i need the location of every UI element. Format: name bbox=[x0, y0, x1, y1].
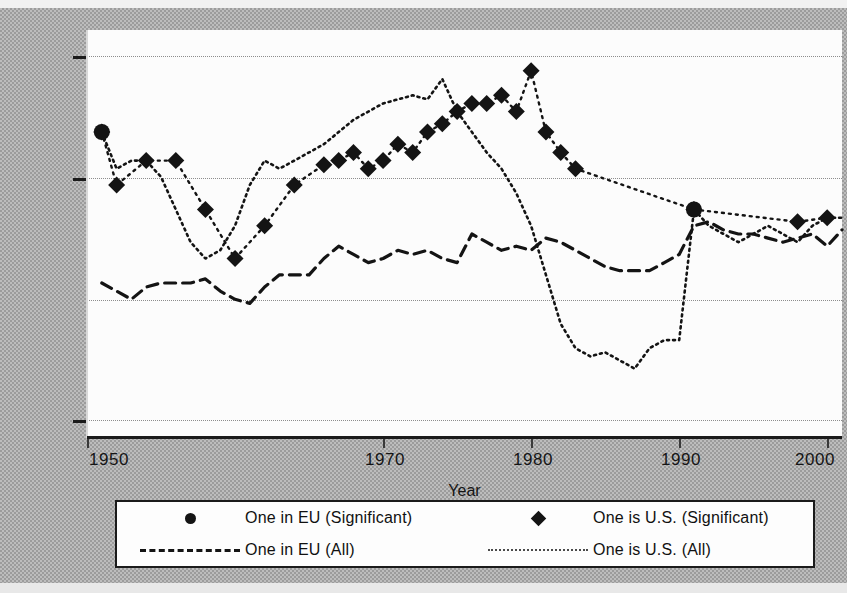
y-tick-2 bbox=[73, 178, 86, 181]
legend-label-us-significant: One is U.S. (Significant) bbox=[593, 509, 769, 527]
x-tick-label-1980: 1980 bbox=[513, 450, 553, 470]
dotted-line-icon bbox=[483, 541, 593, 559]
series-one-is-us-significant bbox=[93, 62, 835, 267]
legend-entry-us-all[interactable]: One is U.S. (All) bbox=[465, 541, 813, 559]
x-tick-label-2000: 2000 bbox=[795, 450, 835, 470]
x-axis-title: Year bbox=[87, 482, 842, 500]
legend-label-us-all: One is U.S. (All) bbox=[593, 541, 711, 559]
x-tick-label-1950: 1950 bbox=[89, 450, 129, 470]
x-tick-1950 bbox=[87, 439, 89, 448]
scanned-page: 1950 1970 1980 1990 2000 Year One in EU … bbox=[0, 0, 847, 593]
x-tick-1970 bbox=[383, 439, 385, 448]
plot-wrapper: 1950 1970 1980 1990 2000 Year bbox=[87, 30, 842, 438]
figure: 1950 1970 1980 1990 2000 Year One in EU … bbox=[20, 8, 832, 583]
circle-marker-icon bbox=[135, 509, 245, 527]
x-tick-1990 bbox=[679, 439, 681, 448]
series-one-in-eu-all bbox=[102, 222, 842, 304]
x-tick-1980 bbox=[531, 439, 533, 448]
diamond-marker-icon bbox=[483, 509, 593, 527]
x-tick-label-1990: 1990 bbox=[661, 450, 701, 470]
x-tick-label-1970: 1970 bbox=[365, 450, 405, 470]
y-tick-1 bbox=[73, 56, 86, 59]
legend-label-eu-all: One in EU (All) bbox=[245, 541, 355, 559]
y-tick-3 bbox=[73, 420, 86, 423]
legend: One in EU (Significant) One is U.S. (Sig… bbox=[115, 500, 815, 568]
x-tick-2000 bbox=[827, 439, 829, 448]
dashed-line-icon bbox=[135, 541, 245, 559]
legend-entry-eu-significant[interactable]: One in EU (Significant) bbox=[117, 509, 465, 527]
legend-entry-us-significant[interactable]: One is U.S. (Significant) bbox=[465, 509, 813, 527]
series-layer bbox=[87, 30, 842, 438]
legend-label-eu-significant: One in EU (Significant) bbox=[245, 509, 412, 527]
legend-entry-eu-all[interactable]: One in EU (All) bbox=[117, 541, 465, 559]
